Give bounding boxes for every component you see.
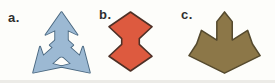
leaf-star-body: [189, 12, 260, 73]
page-bottom-shadow: [0, 80, 275, 83]
leaf-star-shape: [187, 9, 264, 77]
figure-canvas: a. b. c.: [0, 0, 275, 83]
double-diamond-hourglass-shape: [108, 11, 153, 72]
hourglass-body: [109, 12, 152, 71]
three-way-arrow-shape: [30, 10, 93, 75]
shape-a-label: a.: [8, 11, 20, 24]
